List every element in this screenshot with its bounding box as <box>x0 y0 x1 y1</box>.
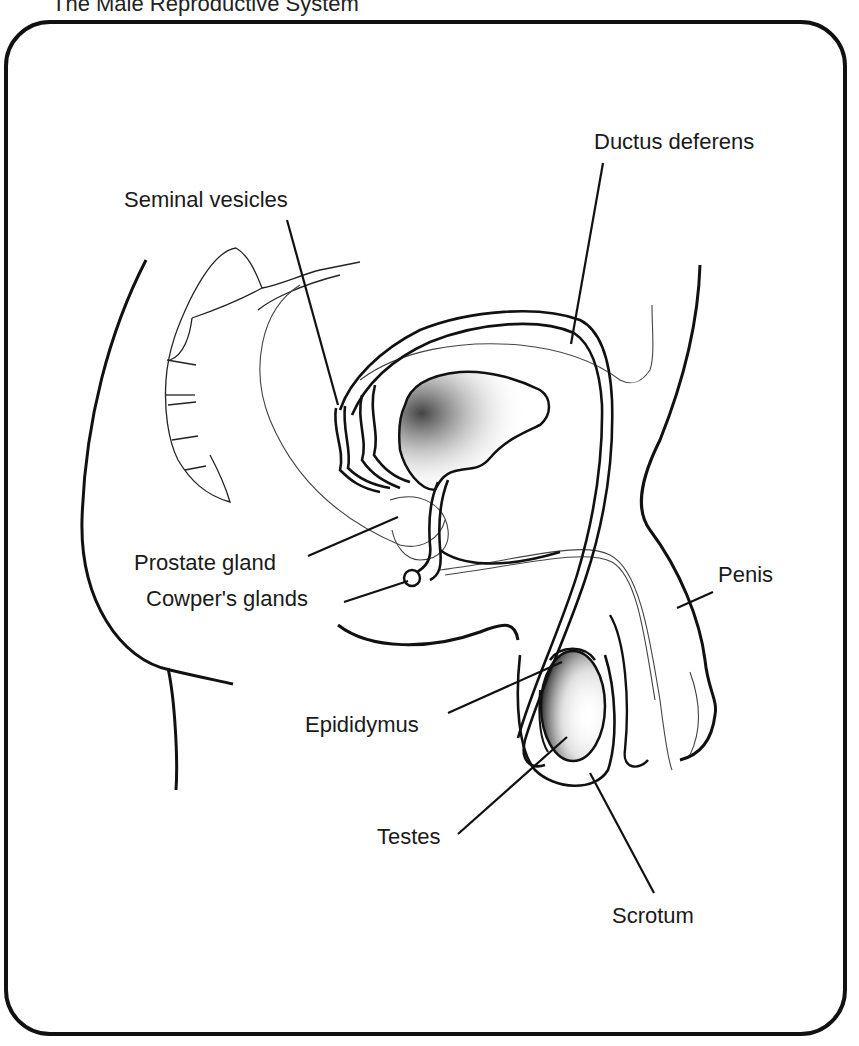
label-testes: Testes <box>377 824 441 850</box>
body-outline <box>82 260 716 790</box>
label-epididymus: Epididymus <box>305 712 419 738</box>
label-seminal-vesicles: Seminal vesicles <box>124 187 288 213</box>
label-penis: Penis <box>718 562 773 588</box>
scrotum-testis <box>518 615 648 786</box>
label-scrotum: Scrotum <box>612 903 694 929</box>
label-cowpers-glands: Cowper's glands <box>146 586 308 612</box>
label-ductus-deferens: Ductus deferens <box>594 129 754 155</box>
bladder <box>399 372 549 490</box>
cowpers-gland <box>404 570 420 586</box>
anatomy-illustration <box>0 0 859 1046</box>
label-prostate-gland: Prostate gland <box>134 550 276 576</box>
